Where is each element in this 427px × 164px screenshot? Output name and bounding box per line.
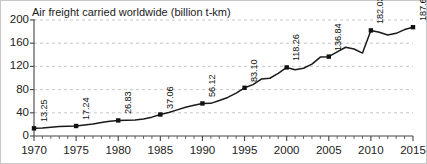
x-tick-label: 1970 [14,144,54,156]
x-tick-label: 1975 [56,144,96,156]
data-point-label: 17.24 [81,98,91,121]
data-point-label: 187.62 [418,0,427,21]
x-tick-label: 2000 [267,144,307,156]
data-point-label: 56.12 [207,75,217,98]
y-tick-label: 120 [1,59,29,71]
y-tick-label: 40 [1,106,29,118]
data-point-label: 13.25 [39,100,49,123]
x-tick-label: 2010 [351,144,391,156]
data-point-label: 26.83 [123,92,133,115]
data-point-label: 37.06 [165,86,175,109]
x-tick-label: 1985 [140,144,180,156]
y-tick-label: 80 [1,83,29,95]
data-point-label: 182.03 [375,0,385,24]
x-axis [34,136,413,141]
x-tick-label: 2015 [393,144,427,156]
x-tick-label: 1995 [225,144,265,156]
x-tick-label: 1980 [98,144,138,156]
data-point-label: 118.26 [291,35,301,62]
data-point-label: 136.84 [333,23,343,51]
x-tick-label: 1990 [182,144,222,156]
chart-container: Air freight carried worldwide (billion t… [0,0,427,164]
data-point-label: 83.10 [249,59,259,82]
y-tick-label: 160 [1,36,29,48]
y-axis [30,19,34,136]
x-tick-label: 2005 [309,144,349,156]
y-tick-label: 0 [1,129,29,141]
y-tick-label: 200 [1,13,29,25]
